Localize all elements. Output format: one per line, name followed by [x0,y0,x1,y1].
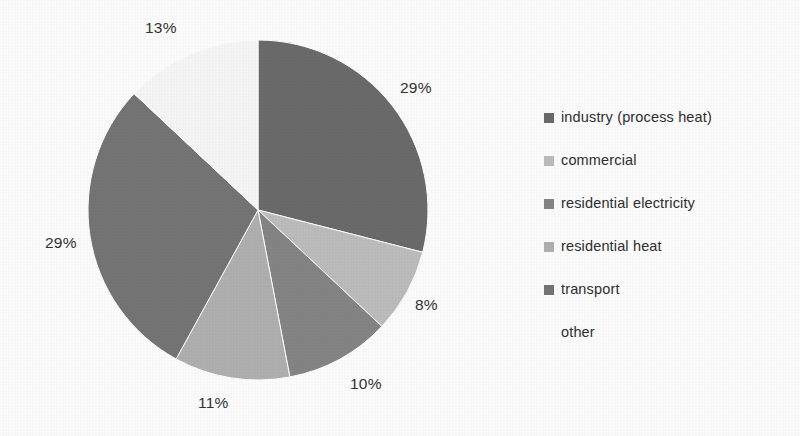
pie-chart-figure: 29%8%10%11%29%13% industry (process heat… [0,0,800,436]
legend-item-label: residential heat [561,239,662,254]
legend-item-label: other [561,325,595,340]
legend-item-label: residential electricity [561,196,695,211]
legend: industry (process heat)commercialresiden… [544,96,794,354]
pie-data-label: 13% [145,20,177,36]
legend-swatch-icon [544,156,554,166]
legend-swatch-icon [544,199,554,209]
legend-swatch-icon [544,242,554,252]
legend-swatch-icon [544,285,554,295]
pie-data-label: 8% [415,297,438,313]
legend-item[interactable]: commercial [544,139,794,182]
legend-item[interactable]: other [544,311,794,354]
legend-item[interactable]: residential heat [544,225,794,268]
legend-item[interactable]: transport [544,268,794,311]
legend-item-label: industry (process heat) [561,110,712,125]
legend-item-label: commercial [561,153,637,168]
legend-item[interactable]: industry (process heat) [544,96,794,139]
legend-swatch-icon [544,328,554,338]
pie-plot-area: 29%8%10%11%29%13% [0,0,500,436]
legend-item-label: transport [561,282,620,297]
pie-data-label: 29% [400,80,432,96]
pie-data-label: 11% [198,395,228,411]
legend-swatch-icon [544,113,554,123]
pie-data-label: 10% [350,376,382,392]
pie-svg [0,0,500,436]
legend-item[interactable]: residential electricity [544,182,794,225]
pie-data-label: 29% [45,235,77,251]
